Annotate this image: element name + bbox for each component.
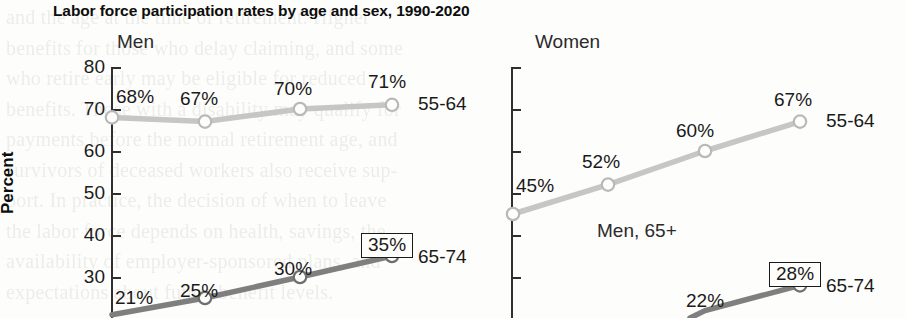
value-label-men-65-74-2000: 25% — [180, 280, 218, 302]
value-label-men-55-64-2020: 71% — [368, 71, 406, 93]
series-end-label-women-55-64: 55-64 — [826, 110, 875, 132]
marker-men-55-64-2000 — [199, 115, 211, 127]
value-label-men-55-64-2000: 67% — [180, 88, 218, 110]
value-label-women-55-64-2010: 60% — [676, 120, 714, 142]
value-label-women-55-64-2000: 52% — [582, 151, 620, 173]
value-label-women-65-74-2020-highlight: 28% — [769, 262, 821, 287]
marker-women-55-64-2000 — [602, 178, 614, 190]
value-label-women-55-64-1990: 45% — [516, 175, 554, 197]
value-label-men-55-64-2010: 70% — [274, 78, 312, 100]
value-label-women-65-74-2010: 22% — [686, 290, 724, 312]
line-women-55-64 — [513, 122, 800, 214]
marker-women-55-64-2020 — [794, 115, 806, 127]
figure-canvas: and the age at the time of retirement. H… — [0, 0, 905, 318]
value-label-women-55-64-2020: 67% — [774, 89, 812, 111]
annotation-men-65-plus: Men, 65+ — [597, 220, 677, 242]
line-men-65-74 — [112, 256, 392, 315]
marker-women-55-64-2010 — [699, 145, 711, 157]
value-label-men-65-74-1990: 21% — [115, 287, 153, 309]
marker-men-55-64-2020 — [386, 99, 398, 111]
series-end-label-women-65-74: 65-74 — [826, 275, 875, 297]
series-end-label-men-65-74: 65-74 — [418, 246, 467, 268]
value-label-men-65-74-2010: 30% — [274, 258, 312, 280]
value-label-men-65-74-2020-highlight: 35% — [361, 233, 413, 258]
value-label-men-55-64-1990: 68% — [116, 86, 154, 108]
series-end-label-men-55-64: 55-64 — [418, 93, 467, 115]
marker-men-55-64-2010 — [294, 103, 306, 115]
marker-women-55-64-1990 — [507, 208, 519, 220]
marker-men-55-64-1990 — [106, 111, 118, 123]
